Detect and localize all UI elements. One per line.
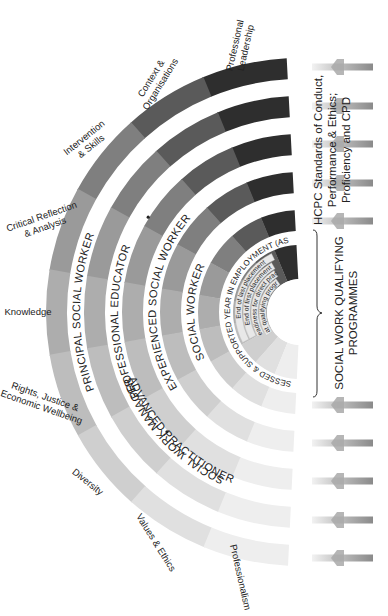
hcpc-label-line-1: HCPC Standards of Conduct, <box>312 75 324 225</box>
separator-dot <box>165 430 168 433</box>
ring-segment <box>231 134 291 167</box>
domain-label-line: Diversity <box>70 466 106 497</box>
domain-label-line: Knowledge <box>4 306 51 317</box>
qualifying-label: SOCIAL WORK QUALIFYING PROGRAMMES <box>333 236 359 390</box>
ring-segment <box>122 282 145 343</box>
ring-segment <box>246 172 294 202</box>
ring-segment <box>144 179 196 237</box>
separator-dot <box>147 216 150 219</box>
left-arrow-icon <box>312 512 373 528</box>
hcpc-label: HCPC Standards of Conduct, Performance &… <box>312 75 352 225</box>
left-arrow-icon <box>312 397 373 413</box>
ring-segment <box>181 147 240 195</box>
qualifying-label-line-2: PROGRAMMES <box>347 271 359 356</box>
hcpc-label-line-3: Proficiency and CPD <box>340 97 352 203</box>
qualifying-label-line-1: SOCIAL WORK QUALIFYING <box>333 236 345 390</box>
ring-segment <box>232 457 292 490</box>
ring-segment <box>217 96 290 132</box>
domain-label-knowledge: Knowledge <box>4 306 51 317</box>
pcf-diagram: PRINCIPAL SOCIAL WORKER SOCIAL WORK MANA… <box>0 0 388 616</box>
ring-segment <box>160 288 183 336</box>
left-arrow-icon <box>312 435 373 451</box>
left-arrow-icon <box>312 473 373 489</box>
ring-segment <box>247 422 295 452</box>
qualifying-brace-icon <box>313 230 322 397</box>
hcpc-label-line-2: Performance & Ethics; <box>326 93 338 207</box>
ring-segment <box>203 528 289 566</box>
left-arrow-icon <box>312 550 373 566</box>
left-arrow-icon <box>312 59 373 75</box>
ring-segment <box>84 276 108 350</box>
ring-segment <box>218 492 291 527</box>
pcf-fan-diagram: PRINCIPAL SOCIAL WORKER SOCIAL WORK MANA… <box>0 0 388 616</box>
domain-label-diversity: Diversity <box>70 466 106 497</box>
ring-segment <box>198 295 220 330</box>
